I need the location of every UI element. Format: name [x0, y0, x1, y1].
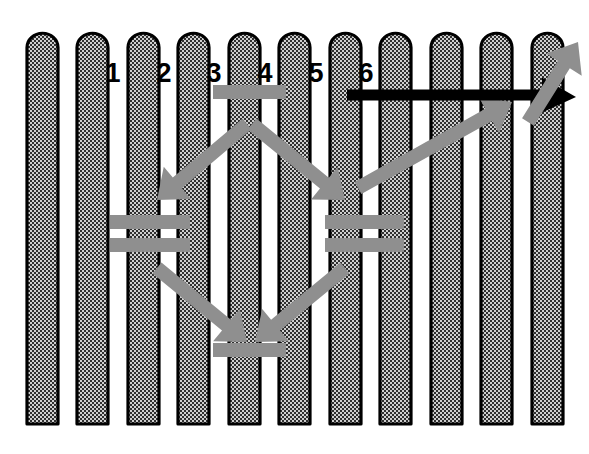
fence-picket: [27, 33, 58, 424]
bottom-cross-bar: [213, 343, 286, 357]
right-upper-bar: [325, 215, 404, 229]
gap-number: 2: [156, 58, 171, 88]
fence-diagram-svg: 123456: [0, 0, 589, 454]
left-lower-bar: [110, 238, 190, 252]
gap-number: 5: [308, 58, 323, 88]
gap-number: 3: [206, 58, 221, 88]
right-lower-bar: [325, 238, 404, 252]
top-cross-bar: [213, 85, 286, 99]
gap-number: 1: [105, 58, 120, 88]
fence-picket: [77, 33, 108, 424]
black-bar-shaft: [347, 90, 560, 101]
gap-number: 4: [257, 58, 272, 88]
gap-number: 6: [358, 58, 373, 88]
figure-canvas: 2 123456: [0, 0, 589, 454]
left-upper-bar: [110, 215, 190, 229]
